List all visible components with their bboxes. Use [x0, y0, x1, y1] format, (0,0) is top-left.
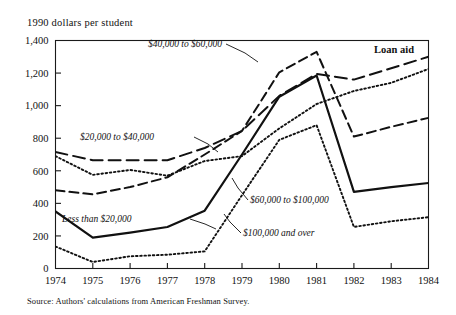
series-annotation: Less than $20,000	[61, 214, 132, 224]
x-axis-tick-label: 1977	[157, 275, 178, 286]
x-axis-tick-label: 1978	[194, 275, 215, 286]
y-axis-tick-label: 0	[43, 263, 48, 274]
plot-area: 02004006008001,0001,2001,400197419751976…	[0, 0, 456, 315]
series-annotation: $40,000 to $60,000	[148, 39, 222, 49]
x-axis-tick-label: 1981	[306, 275, 327, 286]
y-axis-tick-label: 600	[33, 166, 49, 177]
chart-figure: 1990 dollars per student Source: Authors…	[0, 0, 456, 315]
y-axis-tick-label: 200	[33, 231, 49, 242]
x-axis-tick-label: 1979	[232, 275, 253, 286]
y-axis-tick-label: 1,200	[25, 68, 49, 79]
x-axis-tick-label: 1976	[120, 275, 141, 286]
annotation-leader-line	[190, 219, 216, 229]
series-group	[56, 52, 429, 262]
x-axis-tick-label: 1984	[418, 275, 440, 286]
line-chart-svg: 02004006008001,0001,2001,400197419751976…	[0, 0, 456, 315]
x-axis-tick-label: 1983	[381, 275, 402, 286]
series-annotation: $60,000 to $100,000	[250, 195, 329, 205]
series-line	[56, 125, 429, 262]
series-annotation: $100,000 and over	[243, 228, 315, 238]
x-axis-tick-label: 1975	[82, 275, 103, 286]
annotation-leader-line	[224, 214, 241, 233]
series-annotation: $20,000 to $40,000	[80, 132, 154, 142]
series-line	[56, 57, 429, 160]
y-axis-tick-label: 800	[33, 133, 49, 144]
annotation-leader-line	[226, 44, 258, 62]
x-axis-tick-label: 1974	[45, 275, 67, 286]
panel-label: Loan aid	[374, 44, 414, 55]
y-axis-tick-label: 400	[33, 198, 49, 209]
x-axis-tick-label: 1982	[343, 275, 364, 286]
y-axis-tick-label: 1,000	[25, 100, 49, 111]
x-axis-tick-label: 1980	[269, 275, 290, 286]
y-axis-tick-label: 1,400	[25, 35, 49, 46]
